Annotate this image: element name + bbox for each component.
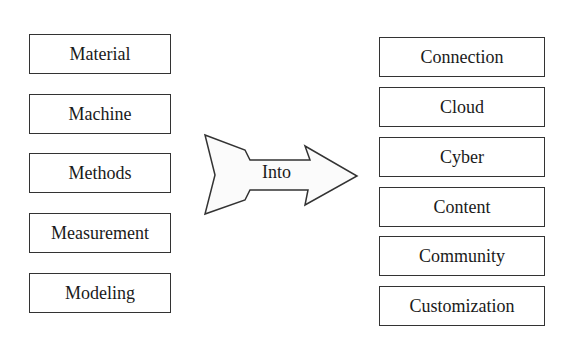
node-cloud: Cloud: [379, 87, 545, 127]
node-customization: Customization: [379, 286, 545, 326]
node-label: Cloud: [440, 97, 484, 118]
node-cyber: Cyber: [379, 137, 545, 177]
node-connection: Connection: [379, 37, 545, 77]
node-community: Community: [379, 236, 545, 276]
node-label: Community: [419, 246, 505, 267]
node-label: Connection: [421, 47, 504, 68]
node-label: Cyber: [440, 147, 484, 168]
node-label: Content: [434, 197, 491, 218]
node-content: Content: [379, 187, 545, 227]
node-label: Customization: [410, 296, 515, 317]
arrow-label: Into: [262, 162, 291, 183]
